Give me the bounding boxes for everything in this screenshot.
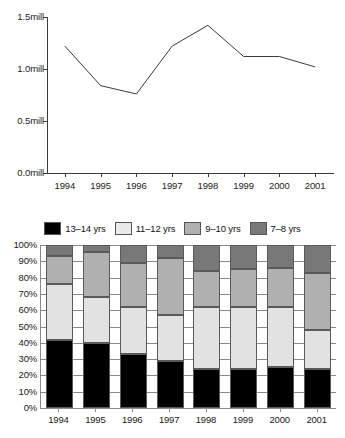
line-chart-y-tick-label: 1.5mill (17, 12, 44, 22)
legend-item-label: 7–8 yrs (271, 223, 301, 234)
bar-segment[interactable] (120, 263, 147, 307)
bar-segment[interactable] (157, 361, 184, 408)
bar-chart-x-tick-label: 1996 (114, 414, 150, 425)
bar-segment[interactable] (120, 245, 147, 263)
line-chart-x-axis (47, 173, 334, 174)
line-chart-x-tick-mark (244, 173, 245, 177)
line-chart-x-tick-mark (101, 173, 102, 177)
bar-segment[interactable] (157, 258, 184, 315)
bar-chart-x-tick-label: 1997 (151, 414, 187, 425)
legend-item[interactable]: 13–14 yrs (44, 222, 105, 235)
bar-segment[interactable] (304, 369, 331, 408)
line-chart-x-tick-label: 2000 (261, 180, 297, 191)
legend-item-label: 9–10 yrs (205, 223, 240, 234)
bar-chart-y-tick-label: 10% (19, 387, 37, 397)
bar-chart-x-tick-label: 1998 (188, 414, 224, 425)
bar-chart-x-tick-mark (280, 408, 281, 412)
bar-chart-x-tick-mark (169, 408, 170, 412)
legend-item-label: 11–12 yrs (136, 223, 176, 234)
bar-segment[interactable] (157, 245, 184, 258)
bar-chart-y-tick-label: 70% (19, 289, 37, 299)
bar-segment[interactable] (193, 245, 220, 271)
bar-chart-y-tick-label: 40% (19, 338, 37, 348)
bar-chart-x-tick-label: 1999 (225, 414, 261, 425)
legend-swatch-icon (250, 222, 267, 235)
bar-segment[interactable] (193, 271, 220, 307)
bar-column[interactable] (83, 245, 110, 408)
bar-column[interactable] (267, 245, 294, 408)
bar-segment[interactable] (83, 252, 110, 298)
legend-item[interactable]: 9–10 yrs (184, 222, 240, 235)
bar-segment[interactable] (46, 284, 73, 339)
line-chart-y-tick-label: 0.5mill (17, 116, 44, 126)
bar-chart-x-tick-mark (132, 408, 133, 412)
bar-segment[interactable] (304, 273, 331, 330)
line-chart-y-tick-mark (43, 69, 47, 70)
line-chart-x-tick-mark (279, 173, 280, 177)
bar-segment[interactable] (267, 307, 294, 367)
line-chart-x-tick-mark (315, 173, 316, 177)
bar-chart-y-axis-labels: 0%10%20%30%40%50%60%70%80%90%100% (0, 240, 37, 438)
bar-segment[interactable] (267, 245, 294, 268)
line-chart-y-tick-label: 0.0mill (17, 168, 44, 178)
bar-chart-x-axis-labels: 19941995199619971998199920002001 (0, 414, 345, 428)
bar-chart-x-tick-label: 1994 (40, 414, 76, 425)
bar-chart-y-tick-label: 0% (24, 403, 37, 413)
bar-segment[interactable] (120, 354, 147, 408)
line-chart-x-tick-label: 1998 (190, 180, 226, 191)
bar-segment[interactable] (230, 269, 257, 306)
bar-segment[interactable] (267, 268, 294, 307)
bar-segment[interactable] (304, 330, 331, 369)
legend-item[interactable]: 7–8 yrs (250, 222, 301, 235)
bar-chart-x-tick-mark (95, 408, 96, 412)
bar-column[interactable] (304, 245, 331, 408)
line-chart-x-tick-label: 1996 (118, 180, 154, 191)
bar-segment[interactable] (83, 245, 110, 252)
bar-segment[interactable] (193, 369, 220, 408)
line-chart-x-tick-label: 1994 (47, 180, 83, 191)
line-chart-x-tick-mark (172, 173, 173, 177)
bar-chart-x-tick-mark (317, 408, 318, 412)
bar-chart-x-tick-mark (243, 408, 244, 412)
bar-segment[interactable] (230, 307, 257, 369)
bar-segment[interactable] (46, 256, 73, 284)
bar-segment[interactable] (46, 245, 73, 256)
bar-segment[interactable] (230, 369, 257, 408)
bar-column[interactable] (120, 245, 147, 408)
bar-segment[interactable] (230, 245, 257, 269)
line-chart-x-tick-mark (136, 173, 137, 177)
bar-segment[interactable] (83, 297, 110, 343)
stacked-bar-chart: 0%10%20%30%40%50%60%70%80%90%100% 199419… (0, 240, 345, 438)
line-chart-x-tick-label: 1995 (83, 180, 119, 191)
bar-segment[interactable] (83, 343, 110, 408)
line-chart-y-tick-mark (43, 17, 47, 18)
bar-chart-y-tick-label: 100% (14, 240, 38, 250)
bar-column[interactable] (157, 245, 184, 408)
bar-chart-y-tick-label: 80% (19, 273, 37, 283)
legend-swatch-icon (44, 222, 61, 235)
bar-segment[interactable] (157, 315, 184, 361)
bar-segment[interactable] (120, 307, 147, 354)
legend-item-label: 13–14 yrs (65, 223, 105, 234)
line-chart-x-tick-mark (208, 173, 209, 177)
line-chart: 0.0mill0.5mill1.0mill1.5mill 19941995199… (0, 0, 345, 200)
line-chart-x-tick-label: 2001 (297, 180, 333, 191)
line-chart-y-axis-labels: 0.0mill0.5mill1.0mill1.5mill (0, 0, 44, 200)
bar-chart-x-tick-mark (58, 408, 59, 412)
bar-chart-y-tick-label: 60% (19, 305, 37, 315)
bar-segment[interactable] (304, 245, 331, 273)
bar-column[interactable] (46, 245, 73, 408)
bar-chart-x-tick-label: 1995 (77, 414, 113, 425)
legend-swatch-icon (184, 222, 201, 235)
bar-segment[interactable] (46, 340, 73, 408)
legend-item[interactable]: 11–12 yrs (115, 222, 176, 235)
bar-segment[interactable] (267, 367, 294, 408)
bar-column[interactable] (230, 245, 257, 408)
line-chart-plot-area (47, 17, 333, 173)
bar-column[interactable] (193, 245, 220, 408)
bar-chart-legend: 13–14 yrs11–12 yrs9–10 yrs7–8 yrs (0, 218, 345, 238)
line-chart-y-tick-label: 1.0mill (17, 64, 44, 74)
bar-chart-y-tick-label: 90% (19, 256, 37, 266)
bar-segment[interactable] (193, 307, 220, 369)
bar-chart-plot-area (40, 245, 336, 409)
